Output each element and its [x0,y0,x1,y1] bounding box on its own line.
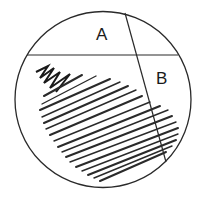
streak-plate-diagram: A B [0,0,200,200]
region-label-a: A [96,26,107,43]
streak-hatching [40,75,178,181]
streak-line [42,76,96,104]
streak-line [50,96,142,135]
streak-zigzag [36,66,70,92]
region-label-b: B [156,70,167,87]
streak-line [42,82,120,117]
streak-line [54,102,150,141]
